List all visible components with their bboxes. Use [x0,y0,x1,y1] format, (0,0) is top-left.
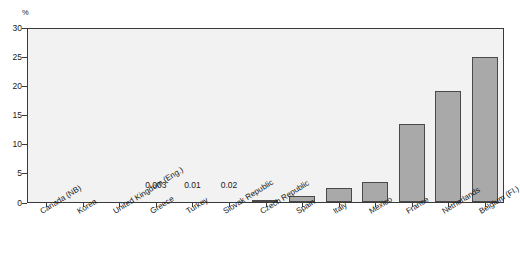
y-axis-tick [22,144,27,145]
y-axis-tick-label: 5 [0,169,22,178]
bar[interactable] [399,124,425,202]
y-axis-unit-label: % [22,8,29,17]
y-axis-tick-label: 0 [0,199,22,208]
bar[interactable] [472,57,498,202]
bar-slot [101,29,138,202]
bar-slot [320,29,357,202]
y-axis-tick-label: 30 [0,24,22,33]
x-axis-category-label: Italy [332,201,349,216]
y-axis-tick [22,115,27,116]
y-axis-tick [22,203,27,204]
bars-layer [28,29,503,202]
bar-slot [247,29,284,202]
y-axis-tick [22,86,27,87]
bar-slot [430,29,467,202]
bar[interactable] [435,91,461,202]
bar-slot [466,29,503,202]
y-axis-tick-label: 10 [0,140,22,149]
y-axis-tick [22,173,27,174]
bar-slot [211,29,248,202]
bar[interactable] [326,188,352,202]
y-axis-tick-label: 25 [0,53,22,62]
y-axis-tick-label: 15 [0,111,22,120]
y-axis-tick-label: 20 [0,82,22,91]
bar-value-label: 0.02 [206,181,252,190]
bar-slot [28,29,65,202]
bar-slot [393,29,430,202]
y-axis-tick [22,57,27,58]
bar-slot [357,29,394,202]
bar-slot [65,29,102,202]
bar-slot [284,29,321,202]
y-axis-tick [22,28,27,29]
